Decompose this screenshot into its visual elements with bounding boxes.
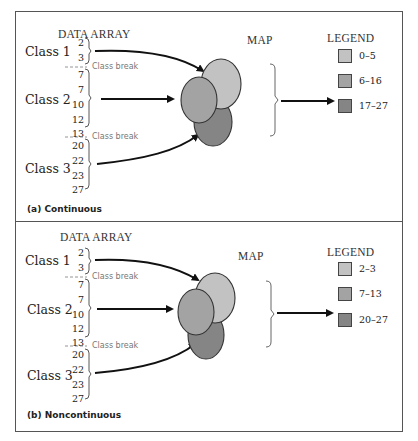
class-3-label: Class 3 (25, 161, 71, 176)
data-value: 12 (70, 323, 84, 334)
data-brackets (85, 38, 91, 189)
class-3-label: Class 3 (27, 368, 73, 383)
class-2-label: Class 2 (27, 302, 73, 317)
class-break-label: Class break (92, 132, 138, 141)
class-break-label: Class break (92, 341, 138, 350)
data-value: 10 (70, 99, 84, 110)
data-value: 7 (70, 84, 84, 95)
class-break-label: Class break (92, 62, 138, 71)
data-value: 23 (70, 379, 84, 390)
data-brackets (85, 248, 91, 399)
caption: (b) Noncontinuous (27, 410, 121, 420)
map-brace (266, 281, 274, 347)
data-value: 27 (70, 393, 84, 404)
map-region-medium (178, 289, 214, 335)
legend-swatch-medium (338, 287, 352, 301)
map-title: MAP (247, 34, 273, 46)
class-1-label: Class 1 (25, 44, 71, 59)
legend-range: 7–13 (359, 288, 382, 299)
panel-noncontinuous: DATA ARRAY Class 1 Class 2 Class 3 2 3 7… (15, 222, 403, 432)
legend-swatch-dark (338, 313, 352, 327)
class-1-label: Class 1 (25, 253, 71, 268)
data-value: 13 (70, 337, 84, 348)
data-value: 2 (70, 247, 84, 258)
data-value: 7 (70, 69, 84, 80)
legend-title: LEGEND (327, 32, 374, 44)
data-value: 7 (70, 294, 84, 305)
legend-range: 0–5 (359, 50, 376, 61)
data-array-title: DATA ARRAY (58, 28, 131, 40)
data-value: 20 (70, 140, 84, 151)
data-value: 22 (70, 155, 84, 166)
legend-range: 6–16 (359, 75, 382, 86)
data-value: 2 (70, 37, 84, 48)
data-value: 23 (70, 170, 84, 181)
data-value: 13 (70, 128, 84, 139)
panel-continuous: DATA ARRAY Class 1 Class 2 Class 3 2 3 7… (15, 11, 403, 221)
data-value: 22 (70, 364, 84, 375)
map-shapes (181, 59, 241, 146)
legend-range: 17–27 (359, 100, 388, 111)
class-break-label: Class break (92, 272, 138, 281)
legend-swatch-medium (338, 74, 352, 88)
data-value: 3 (70, 262, 84, 273)
legend-range: 20–27 (359, 314, 388, 325)
legend-swatch-dark (338, 99, 352, 113)
caption: (a) Continuous (27, 204, 102, 214)
map-title: MAP (238, 250, 264, 262)
data-array-title: DATA ARRAY (60, 231, 133, 243)
legend-swatch-light (338, 262, 352, 276)
data-value: 3 (70, 52, 84, 63)
legend-title: LEGEND (327, 246, 374, 258)
class-2-label: Class 2 (25, 92, 71, 107)
legend-range: 2–3 (359, 263, 376, 274)
data-value: 7 (70, 279, 84, 290)
data-value: 27 (70, 184, 84, 195)
legend-swatch-light (338, 49, 352, 63)
data-value: 10 (70, 309, 84, 320)
data-value: 20 (70, 349, 84, 360)
map-region-medium (181, 77, 217, 123)
map-brace (270, 64, 278, 136)
map-shapes (178, 273, 235, 359)
data-value: 12 (70, 114, 84, 125)
